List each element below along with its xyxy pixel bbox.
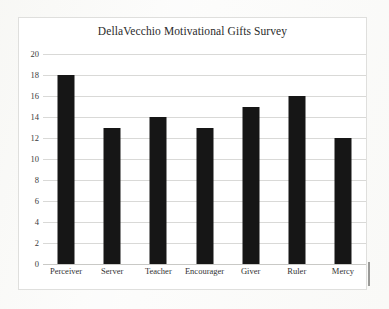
x-tick-label-ruler: Ruler bbox=[287, 266, 306, 276]
bar-giver[interactable] bbox=[242, 107, 259, 265]
y-tick-label-0: 0 bbox=[17, 259, 39, 269]
x-tick-label-encourager: Encourager bbox=[185, 266, 224, 276]
y-tick-label-12: 12 bbox=[17, 133, 39, 143]
bar-server[interactable] bbox=[104, 128, 121, 265]
bar-perceiver[interactable] bbox=[58, 75, 75, 264]
y-axis: 20181614121086420 bbox=[19, 54, 39, 264]
y-tick-label-14: 14 bbox=[17, 112, 39, 122]
x-tick-label-teacher: Teacher bbox=[145, 266, 172, 276]
gridline-0 bbox=[43, 264, 366, 265]
chart-title: DellaVecchio Motivational Gifts Survey bbox=[19, 25, 366, 37]
bar-teacher[interactable] bbox=[150, 117, 167, 264]
x-tick-label-perceiver: Perceiver bbox=[50, 266, 82, 276]
x-tick-label-server: Server bbox=[101, 266, 123, 276]
y-tick-label-20: 20 bbox=[17, 49, 39, 59]
bar-mercy[interactable] bbox=[334, 138, 351, 264]
scan-edge-mark bbox=[368, 262, 370, 286]
chart-frame: DellaVecchio Motivational Gifts Survey 2… bbox=[18, 17, 367, 290]
y-tick-label-6: 6 bbox=[17, 196, 39, 206]
y-tick-label-10: 10 bbox=[17, 154, 39, 164]
y-tick-label-8: 8 bbox=[17, 175, 39, 185]
bar-encourager[interactable] bbox=[196, 128, 213, 265]
x-axis: PerceiverServerTeacherEncouragerGiverRul… bbox=[43, 266, 366, 284]
y-tick-label-4: 4 bbox=[17, 217, 39, 227]
y-tick-label-16: 16 bbox=[17, 91, 39, 101]
bar-ruler[interactable] bbox=[288, 96, 305, 264]
bars-layer bbox=[43, 54, 366, 264]
x-tick-label-giver: Giver bbox=[241, 266, 260, 276]
y-tick-label-2: 2 bbox=[17, 238, 39, 248]
x-tick-label-mercy: Mercy bbox=[332, 266, 354, 276]
y-tick-label-18: 18 bbox=[17, 70, 39, 80]
